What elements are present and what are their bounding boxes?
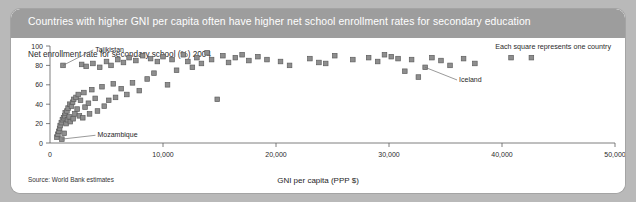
data-point — [109, 63, 114, 68]
data-point — [80, 115, 85, 120]
data-point — [104, 59, 109, 64]
data-point — [82, 90, 87, 95]
data-point — [323, 61, 328, 66]
data-point — [90, 87, 95, 92]
y-tick-label: 100 — [31, 43, 43, 50]
data-point — [102, 104, 107, 109]
data-point — [509, 55, 514, 60]
data-point — [186, 59, 191, 64]
data-point — [416, 75, 421, 80]
data-point — [389, 54, 394, 59]
data-point — [170, 57, 175, 62]
data-point — [278, 59, 283, 64]
data-point — [165, 83, 170, 88]
annotation-label: Iceland — [459, 76, 482, 83]
data-point — [461, 56, 466, 61]
plot-card: Net enrollment rate for secondary school… — [11, 38, 625, 193]
data-point — [95, 109, 100, 114]
data-point — [71, 116, 76, 121]
x-tick-label: 10,000 — [152, 151, 174, 158]
data-point — [430, 55, 435, 60]
data-point — [199, 61, 204, 66]
data-point — [155, 59, 160, 64]
data-point — [119, 86, 124, 91]
y-tick-label: 0 — [39, 140, 43, 147]
data-point — [79, 62, 84, 67]
data-point — [127, 55, 132, 60]
data-point — [473, 61, 478, 66]
data-point — [91, 61, 96, 66]
data-point — [62, 131, 67, 136]
x-tick-label: 30,000 — [378, 151, 400, 158]
data-point — [134, 58, 139, 63]
data-point — [137, 88, 142, 93]
data-point — [409, 57, 414, 62]
data-point — [111, 82, 116, 87]
data-point — [140, 53, 145, 58]
data-point — [125, 92, 130, 97]
y-tick-label: 20 — [35, 120, 43, 127]
scatter-plot: 020406080100010,00020,00030,00040,00050,… — [11, 38, 625, 193]
data-point — [529, 55, 534, 60]
data-point — [233, 55, 238, 60]
data-point — [161, 54, 166, 59]
x-tick-label: 0 — [48, 151, 52, 158]
data-point — [87, 112, 92, 117]
x-tick-label: 40,000 — [491, 151, 513, 158]
data-point — [205, 50, 210, 55]
data-point — [396, 56, 401, 61]
data-point — [190, 65, 195, 70]
data-point — [366, 55, 371, 60]
data-point — [382, 52, 387, 57]
data-point — [130, 81, 135, 86]
y-tick-label: 40 — [35, 101, 43, 108]
data-point — [174, 68, 179, 73]
data-point — [152, 71, 157, 76]
annotation-label: Tajikistan — [95, 46, 124, 54]
data-point — [106, 98, 111, 103]
x-tick-label: 50,000 — [604, 151, 625, 158]
annotation-label: Mozambique — [97, 131, 137, 139]
data-point — [100, 84, 105, 89]
data-point — [423, 65, 428, 70]
data-point — [439, 58, 444, 63]
data-point — [195, 55, 200, 60]
data-point — [403, 69, 408, 74]
data-point — [209, 57, 214, 62]
data-point — [113, 95, 118, 100]
data-point — [116, 57, 121, 62]
data-point — [287, 63, 292, 68]
data-point — [265, 57, 270, 62]
data-point — [76, 92, 81, 97]
data-point — [145, 77, 150, 82]
data-point — [351, 57, 356, 62]
data-point — [93, 96, 98, 101]
data-point — [256, 54, 261, 59]
data-point — [317, 60, 322, 65]
data-point — [148, 56, 153, 61]
data-point — [375, 59, 380, 64]
y-tick-label: 60 — [35, 81, 43, 88]
data-point — [221, 53, 226, 58]
data-point — [448, 63, 453, 68]
data-point — [75, 107, 80, 112]
data-point — [73, 112, 78, 117]
data-point — [97, 65, 102, 70]
data-point — [308, 56, 313, 61]
data-point — [226, 60, 231, 65]
figure-header-band: Countries with higher GNI per capita oft… — [11, 9, 625, 38]
data-point — [181, 52, 186, 57]
y-tick-label: 80 — [35, 62, 43, 69]
data-point — [121, 60, 126, 65]
data-point — [86, 101, 91, 106]
data-point — [247, 58, 252, 63]
figure-card: Countries with higher GNI per capita oft… — [11, 9, 625, 193]
data-point — [332, 53, 337, 58]
x-tick-label: 20,000 — [265, 151, 287, 158]
data-point — [215, 97, 220, 102]
data-point — [240, 52, 245, 57]
data-point — [78, 98, 83, 103]
chart-title: Countries with higher GNI per capita oft… — [28, 16, 531, 27]
data-point — [84, 64, 89, 69]
